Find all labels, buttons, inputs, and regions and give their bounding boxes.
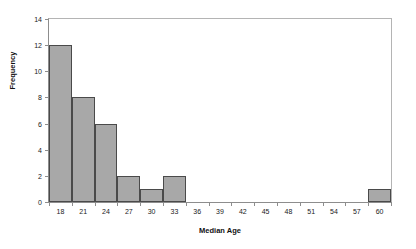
x-axis-title: Median Age — [48, 226, 392, 235]
y-axis-tick-label: 2 — [38, 172, 42, 179]
x-axis-tick-label: 51 — [307, 208, 315, 215]
x-axis-tick-label: 21 — [79, 208, 87, 215]
x-axis-tick — [231, 202, 232, 206]
y-axis-tick-label: 14 — [34, 16, 42, 23]
x-axis-tick-label: 42 — [239, 208, 247, 215]
x-axis-tick-label: 60 — [376, 208, 384, 215]
y-axis-tick-label: 4 — [38, 146, 42, 153]
bar — [163, 176, 186, 202]
x-axis-tick-label: 30 — [148, 208, 156, 215]
x-axis-tick-label: 39 — [216, 208, 224, 215]
bar — [140, 189, 163, 202]
x-axis-tick — [95, 202, 96, 206]
x-axis-tick — [323, 202, 324, 206]
y-axis-tick-label: 12 — [34, 42, 42, 49]
x-axis-tick-label: 57 — [353, 208, 361, 215]
x-axis-tick-label: 36 — [193, 208, 201, 215]
x-axis-tick-label: 27 — [125, 208, 133, 215]
x-axis-tick — [277, 202, 278, 206]
y-axis-tick-label: 6 — [38, 120, 42, 127]
x-axis-tick — [300, 202, 301, 206]
x-axis-tick — [345, 202, 346, 206]
x-axis-tick — [368, 202, 369, 206]
x-axis-tick — [140, 202, 141, 206]
x-axis-tick-label: 45 — [262, 208, 270, 215]
x-axis-tick — [254, 202, 255, 206]
plot-area: 02468101214 1821242730333639424548515457… — [48, 18, 392, 203]
bar — [49, 45, 72, 202]
bar — [72, 97, 95, 202]
x-axis-tick — [209, 202, 210, 206]
x-axis-tick-label: 18 — [56, 208, 64, 215]
y-axis-title: Frequency — [8, 76, 17, 90]
x-axis-tick-label: 48 — [284, 208, 292, 215]
x-axis-tick — [163, 202, 164, 206]
x-axis-tick-label: 33 — [170, 208, 178, 215]
x-axis-tick — [117, 202, 118, 206]
x-axis-tick-label: 54 — [330, 208, 338, 215]
bar — [117, 176, 140, 202]
bar-series — [49, 19, 391, 202]
x-axis-tick-label: 24 — [102, 208, 110, 215]
x-axis-tick — [72, 202, 73, 206]
histogram-figure: Frequency 02468101214 182124273033363942… — [0, 0, 416, 249]
bar — [95, 124, 118, 202]
x-axis-tick — [49, 202, 50, 206]
bar — [368, 189, 391, 202]
x-axis-tick — [391, 202, 392, 206]
y-axis-tick-label: 8 — [38, 94, 42, 101]
y-axis-tick-label: 10 — [34, 68, 42, 75]
y-axis-tick-label: 0 — [38, 199, 42, 206]
x-axis-tick — [186, 202, 187, 206]
